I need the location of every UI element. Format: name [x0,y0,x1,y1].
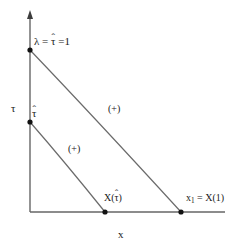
marker-x-one [178,209,183,214]
label-x-tau-hat: X(ˆτ) [104,193,122,203]
tau-hat-glyph: ˆ τ [51,36,55,47]
label-tau-hat: ˆ τ [32,108,36,119]
hat-accent: ˆ [32,105,35,115]
label-lambda-tau-one: λ = ˆ τ =1 [34,36,70,47]
sign-label-lower: (+) [68,144,80,154]
tau-hat-glyph: ˆ τ [32,108,36,119]
hat-accent: ˆ [52,33,55,43]
marker-lambda-tau-one [27,47,32,52]
characteristics-diagram: λ = ˆ τ =1 τ ˆ τ (+) (+) X(ˆτ) x1 = X(1)… [0,0,235,248]
hat-accent: ˆ [115,190,118,200]
x-one-rest: = X(1) [195,192,225,203]
label-x-one: x1 = X(1) [186,193,224,205]
sign-label-upper: (+) [108,104,120,114]
marker-x-tau-hat [102,209,107,214]
y-axis-label: τ [11,103,15,114]
lambda-symbol: λ [34,35,39,47]
tau-hat-glyph: ˆτ [115,193,119,203]
marker-tau-hat [27,119,32,124]
y-axis-arrowhead [27,10,33,19]
x-axis-label: x [118,229,124,240]
equals-one: =1 [58,35,70,47]
upper-characteristic-curve [30,50,181,212]
x-paren-close: ) [119,192,122,203]
lower-characteristic-curve [30,122,105,212]
equals-sign-first: = [42,35,48,47]
x-paren-open: X( [104,192,115,203]
